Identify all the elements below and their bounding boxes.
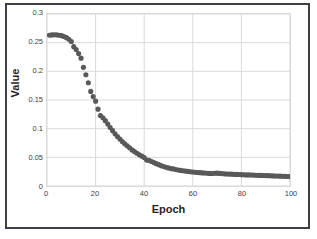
x-tick-label: 80 bbox=[227, 189, 257, 198]
y-tick-label: 0.25 bbox=[9, 38, 43, 46]
data-series-markers bbox=[47, 14, 290, 186]
y-tick-label: 0.1 bbox=[9, 125, 43, 133]
y-axis-title: Value bbox=[9, 53, 21, 113]
y-tick-label: 0.3 bbox=[9, 9, 43, 17]
x-tick-label: 40 bbox=[129, 189, 159, 198]
x-tick-label: 20 bbox=[80, 189, 110, 198]
x-tick-label: 60 bbox=[178, 189, 208, 198]
chart-container: 00.050.10.150.20.250.3 020406080100 Epoc… bbox=[7, 5, 308, 227]
x-axis-tick-labels: 020406080100 bbox=[46, 189, 291, 201]
x-axis-title: Epoch bbox=[46, 203, 291, 215]
plot-area bbox=[46, 13, 291, 187]
x-tick-label: 100 bbox=[276, 189, 306, 198]
x-tick-label: 0 bbox=[31, 189, 61, 198]
y-tick-label: 0.05 bbox=[9, 154, 43, 162]
chart-figure-frame: 00.050.10.150.20.250.3 020406080100 Epoc… bbox=[5, 3, 310, 229]
